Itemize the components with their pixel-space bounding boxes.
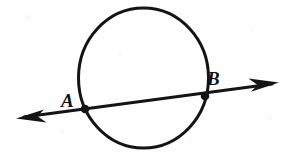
paper-texture [25,10,273,142]
point-label-b: B [207,69,220,88]
point-b-marker [201,92,210,101]
circle-shape [79,8,209,148]
point-a-marker [81,105,90,114]
geometry-canvas [0,0,295,154]
geometry-figure: A B [0,0,295,154]
point-label-a: A [61,91,74,110]
